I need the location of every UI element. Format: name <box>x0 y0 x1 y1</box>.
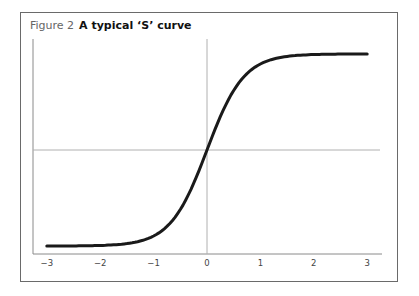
x-tick-label: −3 <box>41 258 54 268</box>
x-tick-labels: −3−2−10123 <box>41 258 370 268</box>
x-tick-label: −1 <box>147 258 160 268</box>
x-tick-label: 1 <box>258 258 263 268</box>
chart: −3−2−10123 <box>0 0 419 296</box>
x-tick-label: 2 <box>311 258 316 268</box>
x-tick-label: 3 <box>364 258 369 268</box>
x-tick-label: 0 <box>204 258 209 268</box>
x-tick-label: −2 <box>94 258 107 268</box>
